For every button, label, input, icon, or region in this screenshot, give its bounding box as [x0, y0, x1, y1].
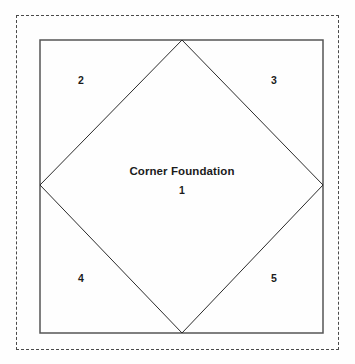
piece-number-label-bottom-right: 5: [271, 273, 277, 284]
piece-number-label-top-right: 3: [271, 75, 277, 86]
center-foundation-number: 1: [40, 185, 324, 196]
piece-number-label-top-left: 2: [78, 75, 84, 86]
center-label-group: Corner Foundation 1: [40, 166, 324, 195]
piece-number-label-bottom-left: 4: [78, 273, 84, 284]
center-foundation-title: Corner Foundation: [40, 166, 324, 178]
foundation-block-diagram: Corner Foundation 1 2 3 4 5: [0, 0, 355, 364]
